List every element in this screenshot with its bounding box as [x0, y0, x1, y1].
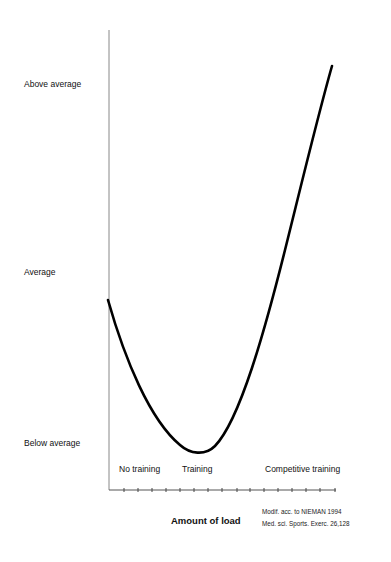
y-label-average: Average — [24, 267, 56, 277]
source-note-line2: Med. sci. Sports. Exerc. 26,128 — [262, 519, 350, 529]
region-label-training: Training — [182, 464, 212, 474]
x-axis-title: Amount of load — [171, 515, 241, 526]
y-label-below-average: Below average — [24, 438, 80, 448]
source-note-line1: Modif. acc. to NIEMAN 1994 — [262, 507, 341, 517]
j-curve-line — [108, 66, 332, 453]
region-label-competitive-training: Competitive training — [265, 464, 340, 474]
y-label-above-average: Above average — [24, 79, 81, 89]
region-label-no-training: No training — [119, 464, 160, 474]
